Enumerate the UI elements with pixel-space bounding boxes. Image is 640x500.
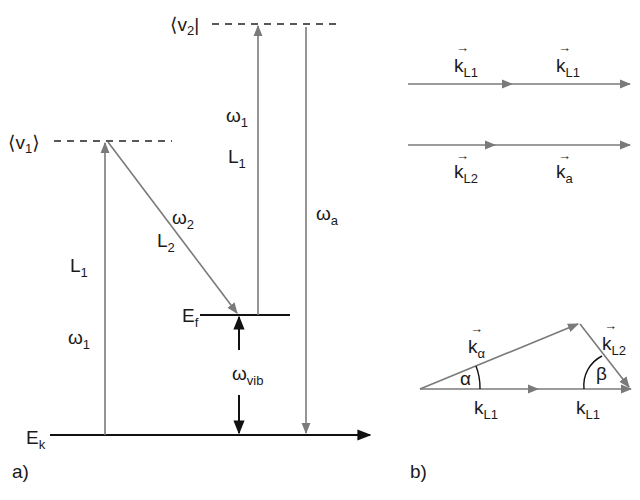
vector-k-alpha: [420, 324, 578, 389]
label-omega-a: ωa: [316, 203, 339, 228]
level-Ef: Ef: [182, 305, 290, 330]
label-kL2-triangle: kL2: [602, 333, 626, 358]
svg-text:Ek: Ek: [26, 427, 46, 452]
label-kL1-base-a: kL1: [474, 397, 498, 422]
label-kL1-row1-b: kL1: [556, 55, 580, 80]
svg-text:⟨v2|: ⟨v2|: [170, 14, 199, 38]
svg-text:→: →: [470, 321, 483, 336]
caption-b: b): [410, 461, 427, 482]
label-beta: β: [596, 363, 607, 384]
svg-text:→: →: [604, 318, 617, 333]
label-kL1-base-b: kL1: [576, 397, 600, 422]
panel-b: kL1 → kL1 → kL2 → ka → α β kα → kL2 → kL…: [408, 40, 631, 482]
svg-text:→: →: [456, 148, 469, 163]
svg-text:→: →: [558, 148, 571, 163]
level-Ek: Ek: [26, 427, 370, 452]
label-kL2-row2: kL2: [454, 161, 478, 186]
label-L1-left: L1: [70, 255, 88, 280]
label-L2: L2: [157, 230, 175, 255]
svg-text:→: →: [456, 40, 469, 55]
svg-text:⟨v1⟩: ⟨v1⟩: [8, 132, 40, 156]
label-kL1-row1-a: kL1: [454, 55, 478, 80]
cars-energy-diagram: ⟨v2| ⟨v1⟩ Ef Ek L1 ω1 ω2 L2 ω1 L1: [0, 0, 640, 500]
svg-text:Ef: Ef: [182, 305, 199, 330]
label-omega2: ω2: [172, 207, 194, 232]
caption-a: a): [12, 461, 29, 482]
label-L1-right: L1: [228, 146, 246, 171]
level-v1: ⟨v1⟩: [8, 132, 172, 156]
panel-a: ⟨v2| ⟨v1⟩ Ef Ek L1 ω1 ω2 L2 ω1 L1: [8, 14, 370, 482]
svg-text:→: →: [558, 40, 571, 55]
angle-alpha-arc: [476, 366, 480, 389]
label-ka-row2: ka: [556, 161, 574, 186]
label-k-alpha: kα: [468, 336, 486, 361]
label-alpha: α: [460, 368, 471, 389]
level-v2: ⟨v2|: [170, 14, 336, 38]
label-omega1-right: ω1: [226, 105, 248, 130]
label-omega-vib: ωvib: [232, 363, 263, 388]
label-omega1-left: ω1: [68, 327, 90, 352]
